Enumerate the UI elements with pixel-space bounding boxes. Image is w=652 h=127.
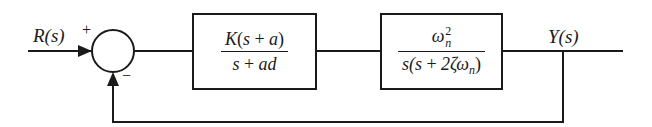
controller-denominator: s + ad: [228, 55, 280, 74]
plant-numerator: ω2n: [428, 26, 456, 49]
fraction-bar: [398, 51, 485, 52]
plant-block: ω2n s(s + 2ζωn): [380, 13, 503, 90]
controller-block: K(s + a) s + ad: [192, 13, 317, 90]
input-arrow-icon: [78, 45, 92, 57]
summing-junction: [92, 30, 134, 72]
input-label: R(s): [33, 26, 65, 45]
fraction-bar: [221, 51, 288, 52]
minus-sign: −: [122, 68, 131, 84]
plant-denominator: s(s + 2ζωn): [398, 55, 485, 77]
controller-transfer-function: K(s + a) s + ad: [221, 30, 288, 74]
signal-wires: [0, 0, 652, 127]
plus-sign: +: [82, 22, 91, 38]
output-label: Y(s): [548, 27, 579, 46]
plant-transfer-function: ω2n s(s + 2ζωn): [398, 26, 485, 76]
feedback-arrow-icon: [107, 72, 119, 86]
controller-numerator: K(s + a): [221, 30, 288, 49]
